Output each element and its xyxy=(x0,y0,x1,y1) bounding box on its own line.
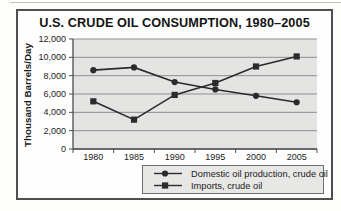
x-tick-label: 1985 xyxy=(114,152,154,162)
line-circle-marker-icon xyxy=(153,169,183,178)
chart-frame: U.S. CRUDE OIL CONSUMPTION, 1980–2005 Th… xyxy=(16,9,333,200)
page-top-rule xyxy=(10,2,341,3)
x-tick-label: 2000 xyxy=(236,152,276,162)
line-square-marker-icon xyxy=(153,181,183,190)
data-point-circle xyxy=(172,79,178,85)
y-tick-label: 8,000 xyxy=(18,71,66,81)
data-point-square xyxy=(253,63,259,69)
x-tick-label: 1995 xyxy=(195,152,235,162)
x-tick-label: 1990 xyxy=(155,152,195,162)
y-tick-label: 2,000 xyxy=(18,126,66,136)
legend: Domestic oil production, crude oil Impor… xyxy=(142,165,324,194)
data-point-circle xyxy=(131,64,137,70)
y-tick-label: 12,000 xyxy=(18,34,66,44)
data-point-square xyxy=(294,53,300,59)
data-point-circle xyxy=(212,86,218,92)
data-point-square xyxy=(212,80,218,86)
legend-label-imports: Imports, crude oil xyxy=(191,181,262,191)
x-tick-label: 1980 xyxy=(73,152,113,162)
data-point-circle xyxy=(90,67,96,73)
y-tick-label: 10,000 xyxy=(18,52,66,62)
y-tick-label: 0 xyxy=(18,144,66,154)
data-point-square xyxy=(131,117,137,123)
legend-item-imports: Imports, crude oil xyxy=(153,180,318,191)
data-point-circle xyxy=(294,99,300,105)
y-tick-label: 4,000 xyxy=(18,107,66,117)
legend-item-domestic-production: Domestic oil production, crude oil xyxy=(153,168,318,179)
data-point-square xyxy=(90,98,96,104)
data-point-square xyxy=(172,92,178,98)
legend-label-domestic-production: Domestic oil production, crude oil xyxy=(191,169,328,179)
y-tick-label: 6,000 xyxy=(18,89,66,99)
x-tick-label: 2005 xyxy=(277,152,317,162)
figure-page: { "chart_data": { "type": "line", "title… xyxy=(0,0,341,211)
data-point-circle xyxy=(253,93,259,99)
